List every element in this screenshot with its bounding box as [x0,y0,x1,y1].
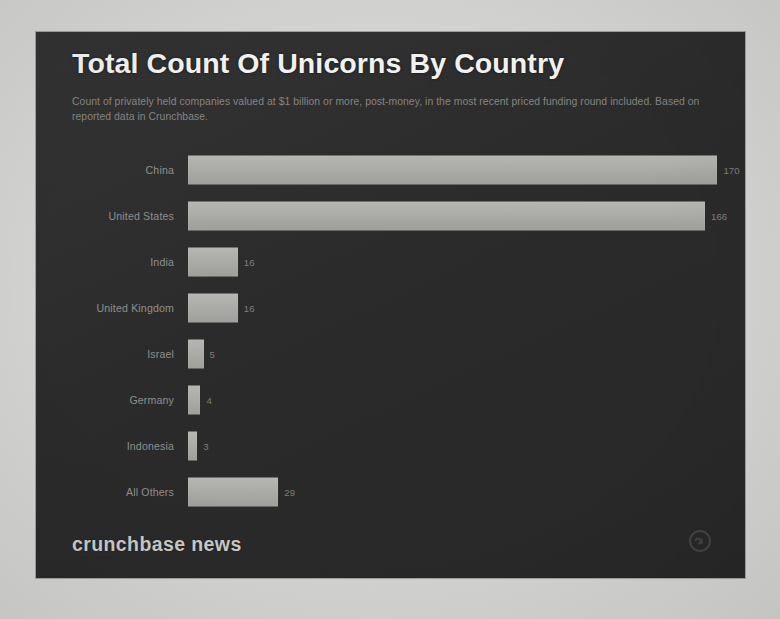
crunchbase-news-wordmark: crunchbase news [72,533,242,556]
bar-track: 3 [188,432,733,461]
bar-value-label: 3 [203,441,208,452]
bar-row: All Others29 [36,472,745,512]
bar-value-label: 170 [723,165,739,176]
screenshot-canvas: Total Count Of Unicorns By Country Count… [0,0,780,619]
bar[interactable] [188,248,238,277]
bar-row: United States166 [36,196,745,236]
bar[interactable] [188,156,717,185]
bar[interactable] [188,294,238,323]
bar-row: India16 [36,242,745,282]
bar[interactable] [188,386,200,415]
crunchbase-logo-icon [689,530,711,552]
bar[interactable] [188,202,705,231]
bar-track: 4 [188,386,733,415]
bar-row: Germany4 [36,380,745,420]
bar-value-label: 16 [244,257,255,268]
bar-track: 16 [188,294,733,323]
bar-value-label: 5 [210,349,215,360]
bar-category-label: United Kingdom [36,302,174,314]
bar-track: 16 [188,248,733,277]
chart-subtitle: Count of privately held companies valued… [72,94,710,124]
page-title: Total Count Of Unicorns By Country [72,48,712,79]
bar-track: 166 [188,202,733,231]
bar-row: Israel5 [36,334,745,374]
chart-panel: Total Count Of Unicorns By Country Count… [36,32,745,578]
bar[interactable] [188,432,197,461]
bar-value-label: 16 [244,303,255,314]
bar-category-label: All Others [36,486,174,498]
bar-track: 170 [188,156,733,185]
bar-chart-plot-area: China170United States166India16United Ki… [36,150,745,518]
bar[interactable] [188,340,204,369]
bar-category-label: China [36,164,174,176]
bar-category-label: Germany [36,394,174,406]
bar-track: 29 [188,478,733,507]
bar-row: United Kingdom16 [36,288,745,328]
bar-value-label: 4 [206,395,211,406]
bar-value-label: 29 [284,487,295,498]
bar-row: Indonesia3 [36,426,745,466]
bar-row: China170 [36,150,745,190]
bar[interactable] [188,478,278,507]
bar-value-label: 166 [711,211,727,222]
bar-track: 5 [188,340,733,369]
bar-category-label: India [36,256,174,268]
bar-category-label: United States [36,210,174,222]
bar-category-label: Israel [36,348,174,360]
bar-category-label: Indonesia [36,440,174,452]
